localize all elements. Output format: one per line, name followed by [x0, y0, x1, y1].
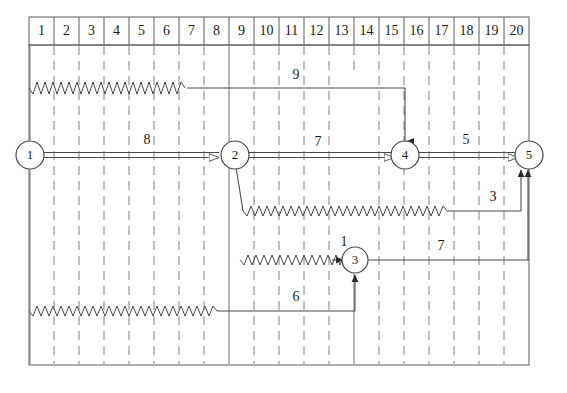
- axis-tick-4: 4: [113, 23, 120, 38]
- node-1-label: 1: [27, 147, 34, 162]
- node-3[interactable]: 3: [342, 247, 368, 273]
- axis-tick-2: 2: [63, 23, 70, 38]
- activity-1-3: 6: [29, 275, 355, 316]
- axis-tick-6: 6: [163, 23, 170, 38]
- axis-tick-16: 16: [410, 23, 424, 38]
- activity-4-5-label: 5: [463, 132, 470, 147]
- axis-tick-14: 14: [360, 23, 374, 38]
- axis-tick-12: 12: [310, 23, 324, 38]
- time-scaled-network-diagram: 1 2 3 4 5 6 7 8 9 10 11 12 13 14 15 16 1…: [0, 0, 567, 393]
- axis-tick-8: 8: [213, 23, 220, 38]
- activity-1-2-label: 8: [144, 132, 151, 147]
- activity-1-3-float-wave: [29, 306, 217, 316]
- activity-2-5-label: 3: [490, 189, 497, 204]
- node-1[interactable]: 1: [16, 141, 44, 169]
- critical-path-row: 8 7 5: [42, 132, 518, 157]
- activity-2-5-drop-from-node-2: [236, 167, 243, 211]
- node-4-label: 4: [402, 147, 409, 162]
- axis-tick-9: 9: [238, 23, 245, 38]
- activity-3-5-label: 7: [438, 238, 445, 253]
- axis-tick-19: 19: [485, 23, 499, 38]
- activity-2-3-float-wave: [240, 255, 348, 265]
- axis-tick-20: 20: [510, 23, 524, 38]
- node-3-label: 3: [352, 252, 359, 267]
- activity-1-4: 9: [29, 67, 405, 142]
- node-5[interactable]: 5: [515, 141, 543, 169]
- activity-2-4-label: 7: [315, 134, 322, 149]
- diagram-canvas: 1 2 3 4 5 6 7 8 9 10 11 12 13 14 15 16 1…: [0, 0, 567, 393]
- axis-tick-10: 10: [260, 23, 274, 38]
- axis-tick-5: 5: [138, 23, 145, 38]
- activity-1-4-label: 9: [293, 67, 300, 82]
- node-4[interactable]: 4: [391, 141, 419, 169]
- grid-solid-verticals: [229, 46, 354, 364]
- axis-tick-13: 13: [335, 23, 349, 38]
- axis-tick-18: 18: [460, 23, 474, 38]
- activity-2-3: 1: [240, 234, 349, 265]
- activity-2-5-float-wave: [243, 206, 447, 216]
- node-5-label: 5: [526, 147, 533, 162]
- node-2[interactable]: 2: [221, 141, 249, 169]
- axis-tick-3: 3: [88, 23, 95, 38]
- axis-tick-1: 1: [38, 23, 45, 38]
- axis-tick-15: 15: [385, 23, 399, 38]
- node-2-label: 2: [232, 147, 239, 162]
- axis-tick-7: 7: [188, 23, 195, 38]
- time-axis-header: 1 2 3 4 5 6 7 8 9 10 11 12 13 14 15 16 1…: [38, 23, 524, 38]
- axis-tick-17: 17: [435, 23, 449, 38]
- activity-1-3-label: 6: [293, 289, 300, 304]
- activity-1-4-float-wave: [29, 82, 185, 94]
- activity-2-3-label: 1: [341, 234, 348, 249]
- axis-tick-11: 11: [285, 23, 298, 38]
